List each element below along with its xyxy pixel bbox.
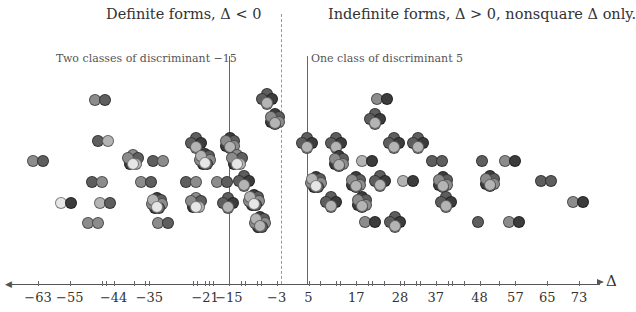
tick-mark <box>70 281 71 286</box>
divider-dashed <box>281 14 282 284</box>
arrow-right-icon <box>597 279 604 285</box>
form-circle <box>65 197 77 209</box>
form-circle <box>301 141 313 153</box>
form-circle <box>356 200 368 212</box>
tick-label: −15 <box>215 290 242 305</box>
tick-mark <box>436 281 437 286</box>
tick-mark <box>114 281 115 286</box>
form-circle <box>369 216 381 228</box>
form-circle <box>269 117 281 129</box>
tick-mark <box>340 281 341 286</box>
form-circle <box>238 179 250 191</box>
tick-mark <box>404 281 405 286</box>
tick-label: −55 <box>56 290 83 305</box>
tick-mark <box>464 281 465 286</box>
tick-label: −3 <box>267 290 286 305</box>
form-circle <box>577 196 589 208</box>
form-circle <box>162 217 174 229</box>
tick-mark <box>336 281 337 286</box>
tick-mark <box>277 281 278 286</box>
form-circle <box>412 141 424 153</box>
tick-mark <box>416 281 417 286</box>
tick-mark <box>134 281 135 286</box>
form-circle <box>476 155 488 167</box>
tick-label: −44 <box>100 290 127 305</box>
form-circle <box>310 180 322 192</box>
form-circle <box>513 216 525 228</box>
form-circle <box>374 179 386 191</box>
tick-label: 37 <box>428 290 445 305</box>
form-circle <box>190 201 202 213</box>
tick-mark <box>245 281 246 286</box>
tick-mark <box>106 281 107 286</box>
marker-line-5 <box>307 56 308 285</box>
form-circle <box>102 135 114 147</box>
tick-mark <box>384 281 385 286</box>
form-circle <box>190 176 202 188</box>
x-axis <box>8 284 600 285</box>
tick-label: −63 <box>24 290 51 305</box>
tick-mark <box>320 281 321 286</box>
marker-line-minus15 <box>229 56 230 285</box>
tick-mark <box>448 281 449 286</box>
form-circle <box>231 158 243 170</box>
tick-mark <box>368 281 369 286</box>
form-circle <box>484 179 496 191</box>
form-circle <box>509 155 521 167</box>
tick-mark <box>229 281 230 286</box>
form-circle <box>127 158 139 170</box>
form-circle <box>145 176 157 188</box>
form-circle <box>96 176 108 188</box>
form-circle <box>37 155 49 167</box>
title-definite: Definite forms, Δ < 0 <box>106 6 261 22</box>
form-circle <box>99 94 111 106</box>
form-circle <box>440 200 452 212</box>
form-circle <box>366 155 378 167</box>
tick-mark <box>213 281 214 286</box>
tick-mark <box>579 281 580 286</box>
tick-mark <box>515 281 516 286</box>
tick-mark <box>197 281 198 286</box>
form-circle <box>388 141 400 153</box>
tick-label: 17 <box>348 290 365 305</box>
tick-mark <box>145 281 146 286</box>
form-circle <box>157 155 169 167</box>
tick-label: 73 <box>571 290 588 305</box>
title-indefinite: Indefinite forms, Δ > 0, nonsquare Δ onl… <box>328 6 636 22</box>
form-circle <box>151 201 163 213</box>
axis-label: Δ <box>606 272 617 290</box>
form-circle <box>248 198 260 210</box>
form-circle <box>104 197 116 209</box>
tick-mark <box>193 281 194 286</box>
tick-label: 65 <box>539 290 556 305</box>
form-circle <box>221 176 233 188</box>
tick-mark <box>499 281 500 286</box>
annotation-minus15: Two classes of discriminant −15 <box>56 52 237 65</box>
form-circle <box>436 155 448 167</box>
tick-mark <box>547 281 548 286</box>
arrow-left-icon: ◀ <box>5 280 12 289</box>
form-circle <box>381 93 393 105</box>
tick-label: 48 <box>471 290 488 305</box>
form-circle <box>222 201 234 213</box>
tick-mark <box>420 281 421 286</box>
tick-mark <box>480 281 481 286</box>
tick-mark <box>261 281 262 286</box>
form-circle <box>472 216 484 228</box>
tick-label: 28 <box>392 290 409 305</box>
form-circle <box>369 117 381 129</box>
tick-label: 57 <box>507 290 524 305</box>
annotation-5: One class of discriminant 5 <box>311 52 463 65</box>
form-circle <box>261 97 273 109</box>
tick-label: −35 <box>136 290 163 305</box>
tick-mark <box>205 281 206 286</box>
tick-mark <box>257 281 258 286</box>
tick-mark <box>209 281 210 286</box>
tick-mark <box>372 281 373 286</box>
form-circle <box>407 175 419 187</box>
tick-mark <box>38 281 39 286</box>
form-circle <box>199 157 211 169</box>
tick-mark <box>400 281 401 286</box>
form-circle <box>389 220 401 232</box>
tick-mark <box>309 281 310 286</box>
